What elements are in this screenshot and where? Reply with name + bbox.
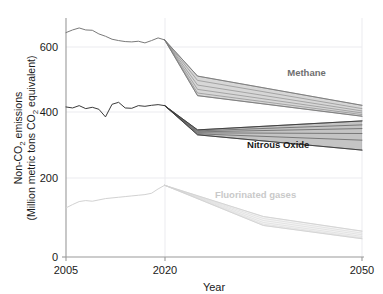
historical-line — [66, 185, 165, 208]
x-tick-labels: 2005 2020 2050 — [54, 264, 374, 276]
y-axis-title-line1-a: Non-CO — [12, 146, 24, 185]
y-axis-title: Non-CO2 emissions (Million metric tons C… — [12, 56, 40, 221]
chart-svg: 600 400 200 0 2005 2020 2050 Year Non-CO… — [0, 0, 383, 294]
series-label-methane: Methane — [287, 67, 326, 78]
series-layer — [66, 28, 362, 239]
y-tick-label-0: 0 — [52, 251, 58, 263]
y-tick-label-200: 200 — [40, 172, 58, 184]
x-axis-title: Year — [203, 281, 226, 293]
x-tick-label-2005: 2005 — [54, 264, 78, 276]
x-tick-label-2050: 2050 — [350, 264, 374, 276]
y-tick-label-400: 400 — [40, 106, 58, 118]
y-axis-title-line2-b: equivalent) — [25, 56, 37, 110]
projection-band — [165, 40, 362, 116]
y-tick-label-600: 600 — [40, 41, 58, 53]
svg-text:(Million metric tons CO2 equiv: (Million metric tons CO2 equivalent) — [25, 56, 40, 221]
historical-line — [66, 28, 165, 43]
series-label-nitrous-oxide: Nitrous Oxide — [247, 139, 309, 150]
x-tick-label-2020: 2020 — [153, 264, 177, 276]
y-axis-title-line2-a: (Million metric tons CO — [25, 114, 37, 220]
historical-line — [66, 102, 165, 117]
y-axis-title-line1-b: emissions — [12, 92, 24, 142]
series-label-fluorinated-gases: Fluorinated gases — [215, 189, 296, 200]
y-tick-labels: 600 400 200 0 — [40, 41, 58, 263]
non-co2-emissions-chart: 600 400 200 0 2005 2020 2050 Year Non-CO… — [0, 0, 383, 294]
